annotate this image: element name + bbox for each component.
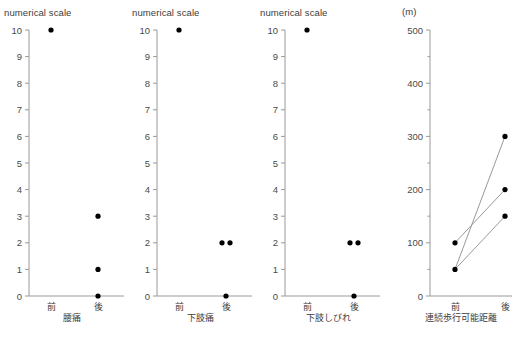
plot-area: 012345678910前後: [0, 0, 128, 338]
plot-area: 0100200300400500前後: [384, 0, 517, 338]
data-point: [347, 240, 352, 245]
y-axis-tick-label: 9: [17, 51, 22, 62]
y-axis-tick-label: 8: [145, 78, 150, 89]
y-axis-tick-label: 0: [145, 291, 150, 302]
y-axis-tick-label: 8: [17, 78, 22, 89]
plot-area: 012345678910前後: [128, 0, 256, 338]
chart-panel-leg-pain: numerical scale 012345678910前後 下肢痛: [128, 0, 256, 338]
y-axis-tick-label: 0: [17, 291, 22, 302]
y-axis-tick-label: 3: [17, 211, 22, 222]
data-point: [351, 293, 356, 298]
y-axis-tick-label: 2: [17, 237, 22, 248]
y-axis-tick-label: 7: [273, 104, 278, 115]
y-axis-tick-label: 9: [273, 51, 278, 62]
data-point: [95, 267, 100, 272]
figure-panel-grid: numerical scale 012345678910前後 腰痛 numeri…: [0, 0, 517, 338]
plot-area: 012345678910前後: [256, 0, 384, 338]
panel-caption: 下肢痛: [128, 311, 264, 324]
y-axis-tick-label: 10: [139, 25, 150, 36]
y-axis-tick-label: 10: [267, 25, 278, 36]
y-axis-tick-label: 5: [145, 158, 150, 169]
data-point: [304, 27, 309, 32]
y-axis-tick-label: 100: [407, 237, 423, 248]
data-point: [227, 240, 232, 245]
y-axis-tick-label: 9: [145, 51, 150, 62]
panel-caption: 下肢しびれ: [256, 311, 392, 324]
chart-panel-walking-distance: (m) 0100200300400500前後 連続歩行可能距離: [384, 0, 517, 338]
data-point: [355, 240, 360, 245]
chart-panel-leg-numbness: numerical scale 012345678910前後 下肢しびれ: [256, 0, 384, 338]
y-axis-tick-label: 1: [17, 264, 22, 275]
y-axis-tick-label: 3: [273, 211, 278, 222]
data-point: [452, 240, 457, 245]
y-axis-tick-label: 6: [17, 131, 22, 142]
y-axis-tick-label: 4: [17, 184, 22, 195]
y-axis-tick-label: 7: [145, 104, 150, 115]
y-axis-tick-label: 3: [145, 211, 150, 222]
y-axis-tick-label: 400: [407, 78, 423, 89]
y-axis-tick-label: 300: [407, 131, 423, 142]
y-axis-tick-label: 2: [273, 237, 278, 248]
y-axis-tick-label: 5: [17, 158, 22, 169]
y-axis-tick-label: 4: [145, 184, 150, 195]
panel-caption: 腰痛: [0, 311, 136, 324]
chart-panel-lower-back-pain: numerical scale 012345678910前後 腰痛: [0, 0, 128, 338]
data-point: [219, 240, 224, 245]
data-point: [502, 214, 507, 219]
y-axis-tick-label: 6: [145, 131, 150, 142]
y-axis-tick-label: 0: [418, 291, 423, 302]
y-axis-tick-label: 1: [273, 264, 278, 275]
data-point: [502, 187, 507, 192]
y-axis-tick-label: 6: [273, 131, 278, 142]
data-point: [223, 293, 228, 298]
y-axis-tick-label: 200: [407, 184, 423, 195]
data-point: [176, 27, 181, 32]
y-axis-tick-label: 4: [273, 184, 278, 195]
data-point: [48, 27, 53, 32]
data-point: [95, 293, 100, 298]
y-axis-tick-label: 7: [17, 104, 22, 115]
y-axis-tick-label: 0: [273, 291, 278, 302]
data-point: [452, 267, 457, 272]
y-axis-tick-label: 10: [11, 25, 22, 36]
y-axis-tick-label: 5: [273, 158, 278, 169]
data-point: [502, 134, 507, 139]
data-point: [95, 214, 100, 219]
panel-caption: 連続歩行可能距離: [384, 311, 517, 324]
y-axis-tick-label: 2: [145, 237, 150, 248]
y-axis-tick-label: 500: [407, 25, 423, 36]
y-axis-tick-label: 1: [145, 264, 150, 275]
y-axis-tick-label: 8: [273, 78, 278, 89]
